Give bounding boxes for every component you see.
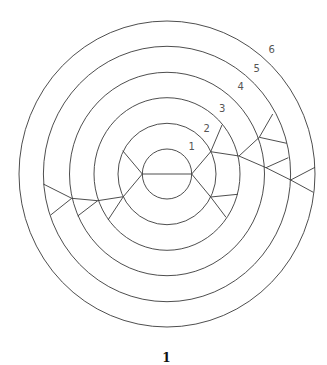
ring-label-6: 6 <box>269 44 275 55</box>
edge-segment <box>259 114 272 137</box>
ring-label-2: 2 <box>204 123 210 134</box>
edge-segment <box>291 180 314 192</box>
edge-segment <box>78 201 98 216</box>
edge-segment <box>239 137 259 156</box>
ring-label-4: 4 <box>238 81 244 92</box>
edge-segment <box>266 168 291 180</box>
edge-segment <box>211 197 226 217</box>
edge-segment <box>211 194 238 197</box>
edge-segment <box>291 167 315 180</box>
edge-segment <box>43 184 71 198</box>
edge-segment <box>211 125 222 152</box>
concentric-ring-diagram: 123456 1 <box>0 0 327 365</box>
edge-segment <box>72 198 98 200</box>
edge-segment <box>51 198 72 215</box>
edge-segment <box>192 174 211 197</box>
edge-segment <box>266 158 288 168</box>
edge-segment <box>259 137 286 143</box>
edges-group <box>43 114 315 220</box>
ring-label-3: 3 <box>219 103 225 114</box>
edge-segment <box>192 152 211 174</box>
edge-segment <box>211 152 239 156</box>
edge-segment <box>123 174 142 197</box>
edge-segment <box>108 197 123 220</box>
edge-segment <box>239 156 266 168</box>
ring-label-5: 5 <box>254 63 260 74</box>
edge-segment <box>98 197 124 201</box>
figure-caption: 1 <box>162 351 170 365</box>
edge-segment <box>123 151 143 174</box>
ring-label-1: 1 <box>189 141 195 152</box>
